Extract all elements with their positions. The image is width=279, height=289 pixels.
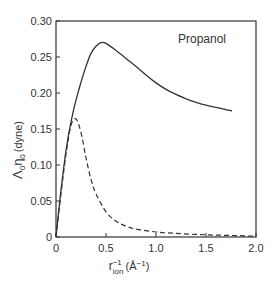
annotation-propanol: Propanol <box>178 32 226 46</box>
x-axis-title: r−1ion(Å−1) <box>109 258 150 276</box>
x-tick-label: 1.5 <box>198 242 213 254</box>
xlabel-sub: ion <box>113 267 124 276</box>
x-axis-ticks: 00.51.01.52.0 <box>53 233 264 254</box>
xlabel-sup: −1 <box>113 258 123 267</box>
series-solid-line <box>56 42 232 237</box>
ylabel-lambda: Λ <box>10 170 25 179</box>
xlabel-unit-close: ) <box>146 260 150 272</box>
y-tick-label: 0.10 <box>31 159 52 171</box>
plot-frame <box>56 21 256 237</box>
svg-text:Λ0η0(dyne): Λ0η0(dyne) <box>10 121 27 179</box>
y-tick-label: 0.05 <box>31 195 52 207</box>
svg-text:r−1ion(Å−1): r−1ion(Å−1) <box>109 258 150 276</box>
y-tick-label: 0 <box>46 231 52 243</box>
xlabel-unit: (Å <box>126 260 138 272</box>
y-axis-title: Λ0η0(dyne) <box>10 121 27 179</box>
y-tick-label: 0.20 <box>31 87 52 99</box>
x-tick-label: 2.0 <box>248 242 263 254</box>
ylabel-sub: 0 <box>18 154 27 159</box>
x-tick-label: 0 <box>53 242 59 254</box>
x-tick-label: 1.0 <box>148 242 163 254</box>
ylabel-eta: η <box>10 159 25 166</box>
chart: 00.050.100.150.200.250.30 00.51.01.52.0 … <box>0 0 279 289</box>
y-tick-label: 0.25 <box>31 51 52 63</box>
y-tick-label: 0.30 <box>31 15 52 27</box>
y-tick-label: 0.15 <box>31 123 52 135</box>
x-tick-label: 0.5 <box>98 242 113 254</box>
ylabel-unit: (dyne) <box>12 121 24 152</box>
series-dashed-line <box>56 119 256 237</box>
